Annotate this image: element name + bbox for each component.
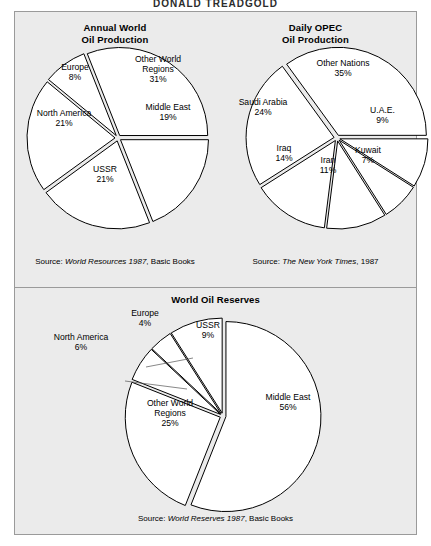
chart-source-annual: Source: World Resources 1987, Basic Book…: [15, 257, 215, 266]
source-prefix-annual: Source:: [35, 257, 63, 266]
pie-label-ussr: USSR21%: [70, 164, 140, 184]
pie-label-europe-value: 4%: [139, 318, 151, 328]
chart-title-opec-line2: Oil Production: [282, 34, 349, 45]
pie-label-kuwait-value: 7%: [362, 155, 374, 165]
pie-label-iran-line1: Iran: [321, 155, 336, 165]
source-title-reserves: World Reserves 1987: [168, 514, 245, 523]
chart-title-opec-line1: Daily OPEC: [289, 22, 342, 33]
chart-frame: Annual World Oil Production Source: Worl…: [14, 11, 417, 535]
pie-label-ussr-line1: USSR: [196, 320, 220, 330]
source-rest-opec: , 1987: [356, 257, 378, 266]
pie-label-europe: Europe4%: [117, 308, 173, 328]
pie-label-middle-east: Middle East56%: [243, 392, 333, 412]
pie-label-iraq-value: 14%: [275, 153, 292, 163]
pie-label-other-world-regions-line2: Regions: [142, 64, 174, 74]
page-top-title: DONALD TREADGOLD: [0, 0, 431, 8]
pie-label-iran: Iran11%: [307, 155, 349, 175]
pie-label-other-world-regions-line1: Other World: [147, 398, 193, 408]
pie-label-iran-value: 11%: [320, 165, 337, 175]
pie-label-north-america-line1: North America: [37, 108, 91, 118]
source-prefix-opec: Source:: [252, 257, 280, 266]
pie-label-saudi-arabia: Saudi Arabia24%: [220, 97, 306, 117]
pie-label-europe: Europe8%: [45, 62, 105, 82]
pie-label-europe-line1: Europe: [131, 308, 159, 318]
chart-panel-world-oil-reserves: World Oil Reserves Source: World Reserve…: [15, 288, 416, 534]
pie-label-other-world-regions-value: 25%: [161, 418, 178, 428]
chart-source-opec: Source: The New York Times, 1987: [215, 257, 416, 266]
pie-label-other-world-regions-line2: Regions: [154, 408, 186, 418]
source-title-annual: World Resources 1987: [65, 257, 146, 266]
chart-title-annual-line1: Annual World: [84, 22, 147, 33]
pie-label-europe-line1: Europe: [61, 62, 89, 72]
pie-label-middle-east: Middle East19%: [120, 102, 216, 122]
chart-title-reserves: World Oil Reserves: [15, 294, 416, 306]
pie-label-iraq-line1: Iraq: [277, 143, 292, 153]
source-title-opec: The New York Times: [282, 257, 356, 266]
pie-label-saudi-arabia-line1: Saudi Arabia: [239, 97, 288, 107]
pie-label-ussr-value: 21%: [96, 174, 113, 184]
pie-label-uae: U.A.E.9%: [355, 105, 410, 125]
pie-label-middle-east-line1: Middle East: [266, 392, 311, 402]
pie-label-ussr-line1: USSR: [93, 164, 117, 174]
pie-label-other-world-regions-value: 31%: [149, 74, 166, 84]
pie-label-europe-value: 8%: [69, 72, 81, 82]
pie-label-other-nations-line1: Other Nations: [316, 58, 369, 68]
pie-label-north-america: North America21%: [16, 108, 112, 128]
chart-page: DONALD TREADGOLD Annual World Oil Produc…: [0, 0, 431, 546]
pie-label-other-world-regions: Other WorldRegions31%: [113, 54, 203, 85]
pie-label-ussr-value: 9%: [202, 330, 214, 340]
pie-label-other-nations-value: 35%: [334, 68, 351, 78]
chart-title-annual-line2: Oil Production: [82, 34, 149, 45]
chart-source-reserves: Source: World Reserves 1987, Basic Books: [15, 514, 416, 523]
chart-title-opec: Daily OPEC Oil Production: [215, 22, 416, 45]
pie-label-other-world-regions-line1: Other World: [135, 54, 181, 64]
pie-label-uae-line1: U.A.E.: [370, 105, 395, 115]
pie-label-other-nations: Other Nations35%: [297, 58, 389, 78]
pie-label-kuwait-line1: Kuwait: [355, 145, 381, 155]
chart-panel-daily-opec-oil-production: Daily OPEC Oil Production Source: The Ne…: [215, 12, 416, 272]
pie-label-ussr: USSR9%: [183, 320, 233, 340]
chart-title-annual: Annual World Oil Production: [15, 22, 215, 45]
pie-label-iraq: Iraq14%: [263, 143, 305, 163]
pie-label-uae-value: 9%: [376, 115, 388, 125]
pie-label-kuwait: Kuwait7%: [343, 145, 393, 165]
chart-title-reserves-line1: World Oil Reserves: [171, 294, 260, 305]
pie-label-middle-east-line1: Middle East: [146, 102, 191, 112]
chart-panel-annual-world-oil-production: Annual World Oil Production Source: Worl…: [15, 12, 215, 272]
pie-label-north-america-value: 21%: [55, 118, 72, 128]
pie-label-north-america-line1: North America: [54, 332, 108, 342]
pie-label-middle-east-value: 19%: [159, 112, 176, 122]
pie-label-north-america: North America6%: [39, 332, 123, 352]
pie-label-middle-east-value: 56%: [279, 402, 296, 412]
source-rest-reserves: , Basic Books: [245, 514, 293, 523]
source-prefix-reserves: Source:: [138, 514, 166, 523]
source-rest-annual: , Basic Books: [146, 257, 194, 266]
pie-label-north-america-value: 6%: [75, 342, 87, 352]
pie-label-other-world-regions: Other WorldRegions25%: [125, 398, 215, 429]
pie-label-saudi-arabia-value: 24%: [254, 107, 271, 117]
